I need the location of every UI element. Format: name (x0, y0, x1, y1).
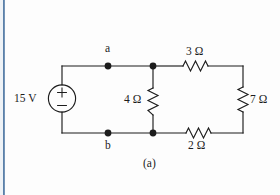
resistor-label-4ohm: 4 Ω (124, 94, 141, 106)
circuit-figure: 15 V a b 3 Ω 4 Ω 2 Ω 7 Ω (a) (0, 0, 280, 195)
resistor-label-2ohm: 2 Ω (188, 140, 205, 152)
node-label-b: b (105, 140, 111, 152)
resistor-4ohm-zigzag (148, 88, 158, 115)
node-label-a: a (105, 43, 110, 55)
resistor-2ohm-zigzag (186, 128, 211, 138)
resistor-7ohm-zigzag (238, 87, 248, 112)
node-dot-b (105, 130, 112, 137)
figure-caption: (a) (143, 158, 156, 170)
node-dot-a (105, 63, 112, 70)
resistor-label-3ohm: 3 Ω (186, 46, 203, 58)
node-dot-bottom-middle (150, 130, 157, 137)
node-dot-top-middle (150, 63, 157, 70)
source-voltage-label: 15 V (14, 93, 36, 105)
resistor-3ohm-zigzag (183, 61, 208, 71)
resistor-label-7ohm: 7 Ω (250, 94, 267, 106)
